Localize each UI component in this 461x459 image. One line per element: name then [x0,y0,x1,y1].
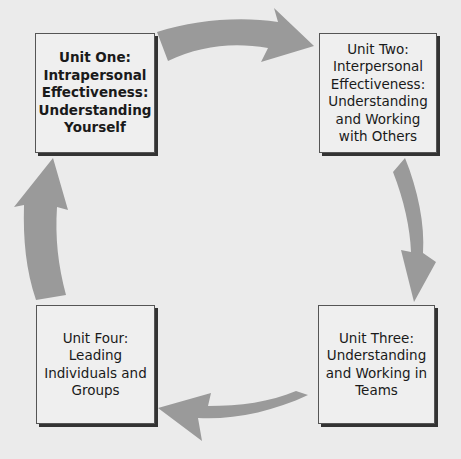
unit-four-box: Unit Four: Leading Individuals and Group… [36,305,155,424]
unit-one-label: Unit One: Intrapersonal Effectiveness: U… [39,49,152,137]
arrow-down-icon [393,158,436,302]
unit-one-box: Unit One: Intrapersonal Effectiveness: U… [35,33,155,153]
unit-three-label: Unit Three: Understanding and Working in… [326,330,427,400]
arrow-right-icon [157,8,314,62]
arrow-up-icon [14,158,68,300]
unit-four-label: Unit Four: Leading Individuals and Group… [44,330,146,400]
arrow-left-icon [158,391,308,441]
unit-two-box: Unit Two: Interpersonal Effectiveness: U… [319,33,437,153]
unit-three-box: Unit Three: Understanding and Working in… [318,305,435,424]
unit-two-label: Unit Two: Interpersonal Effectiveness: U… [328,41,427,146]
